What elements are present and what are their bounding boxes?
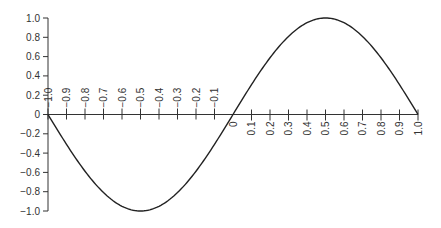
x-tick-label: −0.4	[154, 87, 165, 107]
y-axis: 1.00.80.60.40.20−0.2−0.4−0.6−0.8−1.0	[20, 13, 48, 217]
x-tick-label: −0.5	[135, 87, 146, 107]
y-tick-label: −0.8	[20, 186, 40, 197]
x-tick-label: 0.1	[246, 121, 257, 135]
x-tick-label: 0.7	[357, 121, 368, 135]
x-axis: −1.0−0.9−0.8−0.7−0.6−0.5−0.4−0.3−0.2−0.1…	[43, 87, 424, 135]
y-tick-label: −0.4	[20, 148, 40, 159]
x-tick-label: 0.3	[283, 121, 294, 135]
x-tick-label: −0.8	[80, 87, 91, 107]
y-tick-label: 0.4	[26, 70, 40, 81]
x-tick-label: −0.9	[61, 87, 72, 107]
x-tick-label: 0.6	[339, 121, 350, 135]
x-tick-label: −1.0	[43, 87, 54, 107]
y-tick-label: −1.0	[20, 206, 40, 217]
sine-wave-chart: 1.00.80.60.40.20−0.2−0.4−0.6−0.8−1.0 −1.…	[0, 0, 441, 228]
x-tick-label: −0.2	[191, 87, 202, 107]
x-tick-label: 0.2	[265, 121, 276, 135]
y-tick-label: 0.8	[26, 32, 40, 43]
x-tick-label: 0.5	[320, 121, 331, 135]
x-tick-label: −0.1	[209, 87, 220, 107]
x-tick-label: 0.4	[302, 121, 313, 135]
y-tick-label: 1.0	[26, 13, 40, 24]
x-tick-label: −0.7	[98, 87, 109, 107]
x-tick-label: 0.9	[394, 121, 405, 135]
y-tick-label: −0.6	[20, 167, 40, 178]
x-tick-label: 0.8	[376, 121, 387, 135]
y-tick-label: 0.6	[26, 51, 40, 62]
y-tick-label: 0	[34, 109, 40, 120]
y-tick-label: 0.2	[26, 90, 40, 101]
y-tick-label: −0.2	[20, 128, 40, 139]
x-tick-label: 1.0	[413, 121, 424, 135]
x-tick-label: −0.3	[172, 87, 183, 107]
plot-area: 1.00.80.60.40.20−0.2−0.4−0.6−0.8−1.0 −1.…	[0, 0, 441, 228]
x-tick-label: −0.6	[117, 87, 128, 107]
